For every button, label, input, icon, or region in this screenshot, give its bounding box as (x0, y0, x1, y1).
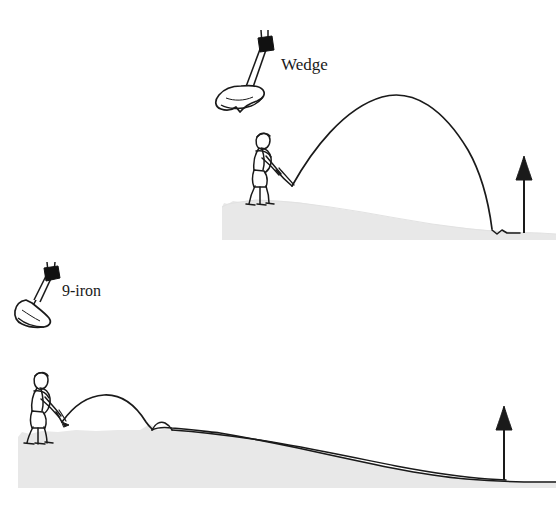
golfer-figure (246, 133, 294, 205)
wedge-label: Wedge (281, 55, 328, 74)
wedge-scene (216, 30, 556, 240)
wedge-club-icon (216, 30, 274, 112)
flag-pennant (516, 156, 532, 180)
nine-iron-trajectory (62, 395, 152, 429)
flag-pennant (496, 406, 512, 430)
nine-iron-label: 9-iron (62, 282, 101, 299)
flag-pin (496, 406, 512, 480)
wedge-scene-ground (222, 200, 556, 240)
nine-iron-club-icon (15, 262, 60, 327)
wedge-grip (258, 36, 274, 52)
golf-trajectory-figure: Wedge (0, 0, 556, 508)
nine-iron-grip (44, 266, 60, 281)
nine-iron-head (15, 300, 51, 327)
flag-pin (516, 156, 532, 233)
